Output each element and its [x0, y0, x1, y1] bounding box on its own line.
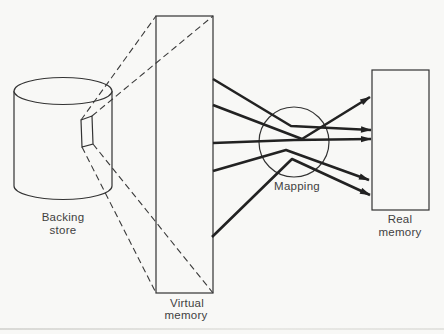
- real-memory-label-line2: memory: [378, 226, 421, 238]
- virtual-memory-label-line1: Virtual: [170, 297, 204, 309]
- real-memory-box: [372, 70, 429, 210]
- mapping-line-3: [213, 139, 371, 143]
- mapping-lines: [212, 79, 371, 237]
- mapping-line-1: [213, 79, 371, 130]
- mapping-line-2: [213, 97, 370, 139]
- backing-store-cylinder: [14, 78, 112, 200]
- backing-store-label-line2: store: [50, 224, 77, 236]
- backing-store-segment-box: [81, 116, 93, 147]
- projection-line-top-near: [81, 16, 156, 120]
- real-memory-label-line1: Real: [388, 213, 413, 225]
- projection-line-bottom-near: [82, 147, 156, 293]
- virtual-memory-label-line2: memory: [164, 309, 207, 321]
- virtual-memory-slab: [156, 16, 213, 293]
- diagram-canvas: Backing store Virtual memory Mapping Rea…: [0, 0, 444, 334]
- scan-artifact-line: [0, 328, 444, 330]
- backing-store-cylinder-top: [14, 78, 112, 105]
- backing-store-label-line1: Backing: [42, 211, 85, 223]
- backing-store-cylinder-body: [14, 91, 112, 199]
- mapping-label: Mapping: [274, 180, 320, 192]
- mapping-line-4: [213, 150, 369, 180]
- virtual-memory-diagram: Backing store Virtual memory Mapping Rea…: [0, 0, 444, 334]
- diagram-labels: Backing store Virtual memory Mapping Rea…: [42, 180, 422, 321]
